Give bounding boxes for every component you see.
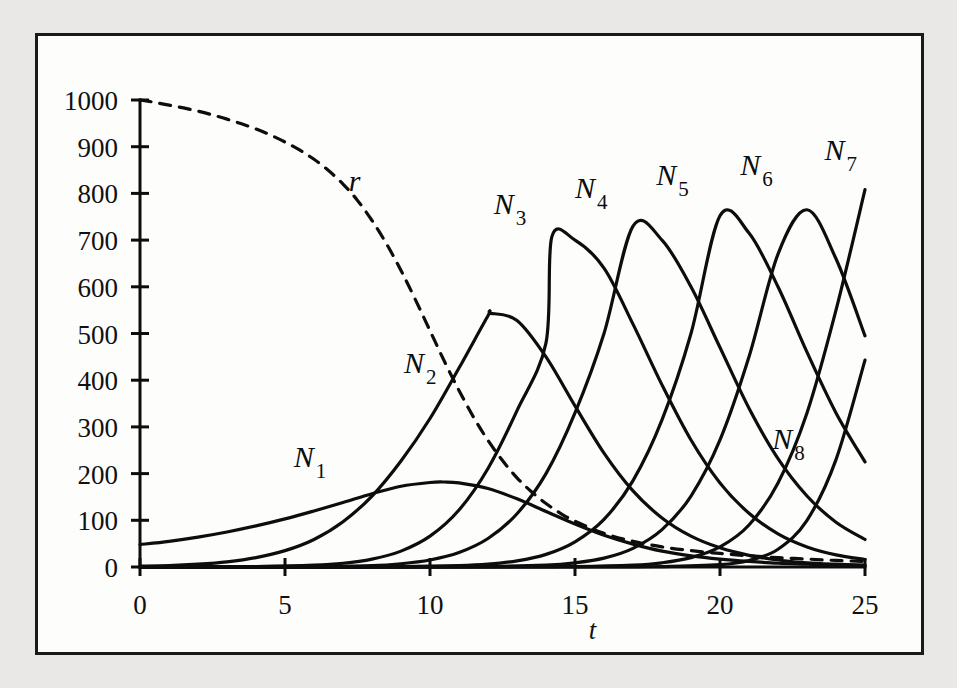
curve-label-letter: N <box>493 187 516 220</box>
curve-label-r: r <box>349 164 361 197</box>
y-tick-label: 0 <box>105 553 119 583</box>
curve-label-letter: N <box>403 346 426 379</box>
curve-label-subscript: 6 <box>762 167 773 191</box>
curve-n1 <box>140 482 865 566</box>
curve-labels: N1N2N3N4N5N6N7N8r <box>293 133 857 483</box>
x-axis-title: t <box>589 615 598 645</box>
x-tick-label: 15 <box>562 590 589 620</box>
curve-label-subscript: 7 <box>846 152 857 176</box>
x-tick-label: 5 <box>278 590 292 620</box>
curve-n5 <box>140 210 865 567</box>
curve-label-letter: N <box>655 158 678 191</box>
curve-label-subscript: 3 <box>516 206 527 230</box>
curve-label-subscript: 4 <box>597 190 608 214</box>
y-tick-label: 200 <box>78 460 119 490</box>
curve-label-n3: N3 <box>493 187 527 230</box>
curve-label-letter: N <box>293 440 316 473</box>
y-tick-label: 400 <box>78 366 119 396</box>
y-tick-label: 500 <box>78 320 119 350</box>
x-tick-label: 10 <box>417 590 444 620</box>
y-tick-label: 600 <box>78 273 119 303</box>
curve-label-letter: N <box>739 148 762 181</box>
y-tick-label: 300 <box>78 413 119 443</box>
curve-label-n5: N5 <box>655 158 689 201</box>
y-tick-label: 700 <box>78 226 119 256</box>
x-tick-label: 25 <box>852 590 879 620</box>
curve-n8 <box>140 360 865 567</box>
curve-label-letter: N <box>771 422 794 455</box>
curve-label-subscript: 8 <box>794 441 805 465</box>
y-tick-label: 800 <box>78 179 119 209</box>
curve-n6 <box>140 210 865 567</box>
y-tick-label: 1000 <box>64 86 118 116</box>
y-tick-label: 900 <box>78 133 119 163</box>
curve-label-subscript: 2 <box>426 365 437 389</box>
curve-label-n7: N7 <box>823 133 857 176</box>
population-dynamics-chart: N1N2N3N4N5N6N7N8r 0100200300400500600700… <box>0 0 957 688</box>
curve-label-subscript: 5 <box>678 177 689 201</box>
curve-label-n4: N4 <box>574 171 608 214</box>
x-tick-label: 0 <box>133 590 147 620</box>
x-tick-label: 20 <box>707 590 734 620</box>
y-tick-label: 100 <box>78 506 119 536</box>
curve-label-n1: N1 <box>293 440 327 483</box>
curve-label-n6: N6 <box>739 148 773 191</box>
curve-label-letter: r <box>349 164 361 197</box>
curve-label-letter: N <box>823 133 846 166</box>
curve-label-letter: N <box>574 171 597 204</box>
curve-label-n2: N2 <box>403 346 437 389</box>
curve-label-subscript: 1 <box>316 459 327 483</box>
